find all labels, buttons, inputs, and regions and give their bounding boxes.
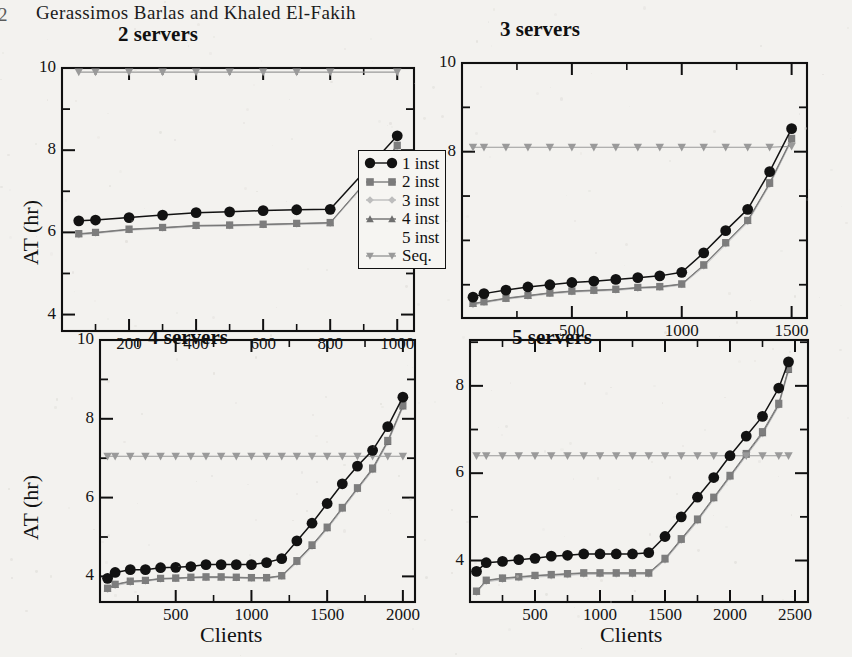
scan-speck — [337, 607, 340, 610]
scan-speck — [391, 126, 393, 128]
scan-speck — [75, 100, 78, 103]
scan-speck — [109, 185, 111, 187]
scan-speck — [716, 481, 718, 483]
scan-speck — [326, 269, 328, 271]
scan-speck — [107, 318, 109, 320]
legend-label: Seq. — [402, 247, 432, 264]
legend-item-4-inst: 4 inst — [364, 210, 439, 229]
x-tick-label: 2000 — [710, 605, 750, 625]
scan-speck — [134, 591, 137, 594]
scan-speck — [563, 453, 566, 456]
scan-speck — [35, 143, 37, 145]
scan-speck — [489, 156, 491, 158]
scan-speck — [74, 291, 75, 292]
scan-speck — [91, 2, 92, 3]
scan-speck — [114, 594, 116, 596]
scan-speck — [144, 208, 145, 209]
scan-speck — [646, 274, 647, 275]
scan-speck — [778, 476, 780, 478]
scan-speck — [213, 36, 215, 38]
x-tick-label: 500 — [156, 605, 196, 625]
scan-speck — [211, 475, 213, 477]
scan-speck — [423, 117, 426, 120]
scan-speck — [9, 189, 11, 191]
scan-speck — [235, 402, 237, 404]
scan-speck — [188, 45, 189, 46]
scan-speck — [261, 60, 263, 62]
scan-speck — [370, 38, 372, 40]
scan-speck — [780, 250, 783, 253]
scan-speck — [68, 507, 70, 509]
scan-speck — [758, 460, 761, 463]
scan-speck — [414, 83, 415, 84]
scan-speck — [65, 199, 68, 202]
scan-speck — [649, 533, 651, 535]
scan-speck — [2, 52, 4, 54]
scan-speck — [343, 529, 346, 532]
scan-speck — [326, 441, 329, 444]
scan-speck — [804, 127, 807, 130]
scan-speck — [713, 130, 715, 132]
scan-speck — [11, 577, 13, 579]
y-tick-label: 8 — [28, 139, 56, 159]
scan-speck — [466, 215, 469, 218]
chart-panel-two-servers: 2 servers468102004006008001000AT (hr) — [0, 0, 852, 657]
scan-speck — [71, 397, 74, 400]
scan-speck — [651, 461, 653, 463]
y-tick-label: 6 — [66, 487, 94, 507]
scan-speck — [794, 295, 796, 297]
scan-speck — [566, 603, 567, 604]
scan-speck — [566, 195, 567, 196]
scan-speck — [713, 515, 714, 516]
scan-speck — [418, 402, 420, 404]
scan-speck — [105, 561, 107, 563]
scan-speck — [107, 534, 110, 537]
scan-speck — [343, 464, 345, 466]
scan-speck — [451, 572, 453, 574]
scan-speck — [35, 570, 38, 573]
scan-speck — [501, 434, 503, 436]
scan-speck — [840, 305, 842, 307]
scan-speck — [209, 52, 212, 55]
legend-label: 2 inst — [402, 173, 439, 190]
scan-speck — [724, 397, 725, 398]
running-head: Gerassimos Barlas and Khaled El-Fakih — [36, 2, 356, 24]
scan-speck — [344, 48, 347, 51]
scan-speck — [850, 138, 851, 139]
scan-speck — [325, 396, 327, 398]
scan-speck — [830, 169, 833, 172]
scan-speck — [10, 558, 13, 561]
x-tick-label: 1000 — [377, 334, 417, 354]
x-tick-label: 500 — [552, 321, 592, 341]
scan-speck — [754, 360, 756, 362]
scan-speck — [373, 69, 374, 70]
scan-speck — [653, 385, 655, 387]
scan-speck — [409, 498, 412, 501]
scan-speck — [610, 601, 612, 603]
scan-speck — [54, 406, 57, 409]
scan-speck — [312, 414, 314, 416]
x-tick-label: 2000 — [383, 605, 423, 625]
scan-speck — [634, 590, 636, 592]
scan-speck — [845, 222, 848, 225]
scan-speck — [398, 475, 400, 477]
scan-speck — [618, 489, 619, 490]
scan-speck — [698, 330, 700, 332]
scan-speck — [581, 648, 583, 650]
x-tick-label: 1000 — [580, 605, 620, 625]
x-axis-label-five-servers: Clients — [600, 622, 662, 648]
scan-speck — [47, 99, 48, 100]
scan-speck — [174, 139, 176, 141]
scan-speck — [255, 519, 257, 521]
scan-speck — [794, 613, 797, 616]
scan-speck — [372, 61, 373, 62]
scan-speck — [441, 115, 444, 118]
y-tick-label: 10 — [66, 329, 94, 349]
scan-speck — [286, 201, 287, 202]
scan-speck — [50, 252, 53, 255]
scan-speck — [0, 79, 1, 80]
scan-speck — [316, 481, 318, 483]
scan-speck — [56, 398, 58, 400]
scan-speck — [569, 442, 572, 445]
chart-panel-three-servers: 3 servers81050010001500 — [0, 0, 852, 657]
